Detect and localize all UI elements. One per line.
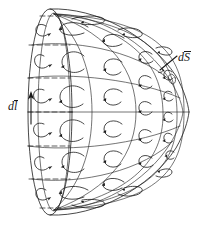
curl-loop [34,89,53,103]
curl-loop [103,89,122,105]
curl-loop [102,178,124,190]
curl-loops-column-d [138,51,153,167]
curl-loop [138,76,152,90]
curl-loop [35,55,53,69]
curl-loop [61,152,84,172]
curl-loop [34,123,53,137]
curl-loop [35,157,53,171]
curl-loop [103,121,122,137]
curl-loop [162,91,173,101]
curl-loops-column-a [34,24,53,200]
curl-loops-column-c [102,34,124,190]
surface-diagram [0,0,210,225]
dl-label-vector: l [14,99,17,112]
curl-loop [61,52,84,73]
dl-label: dl [8,99,17,112]
curl-loop [102,34,124,46]
dS-label-vector: S [184,50,190,63]
curl-loop [138,102,152,116]
curl-loop [36,188,51,200]
latitude-1 [32,44,170,80]
stokes-theorem-figure: dl dS [0,0,210,225]
latitude-5 [32,144,170,180]
curl-loop [162,112,173,122]
curl-loop [103,59,122,75]
dS-label: dS [178,50,190,63]
curl-loops-column-b [59,23,88,200]
